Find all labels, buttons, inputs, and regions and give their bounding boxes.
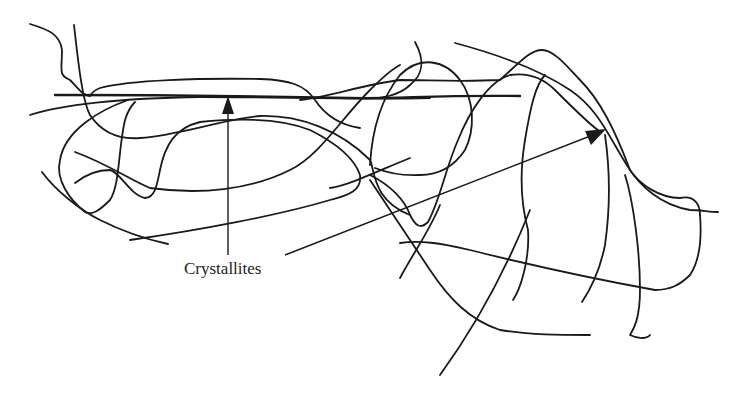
crystallites-label: Crystallites: [184, 259, 261, 279]
arrow-head-left-icon: [222, 96, 234, 114]
polymer-chains-drawing: [0, 0, 739, 398]
diagram-canvas: Crystallites: [0, 0, 739, 398]
arrow-head-right-icon: [585, 129, 606, 145]
